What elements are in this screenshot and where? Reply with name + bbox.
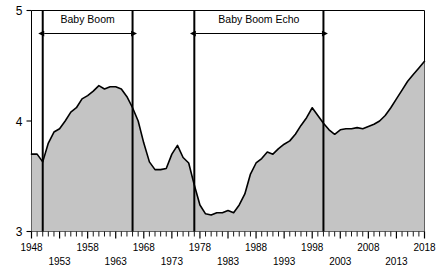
x-tick-label: 2013	[385, 256, 408, 267]
x-tick-label: 1983	[217, 256, 240, 267]
annotation-label: Baby Boom Echo	[218, 13, 299, 25]
x-tick-label: 1998	[301, 242, 324, 253]
series-area-fill	[32, 61, 425, 231]
x-tick-label: 1948	[20, 242, 43, 253]
y-tick-label: 5	[16, 4, 23, 18]
x-tick-label: 1993	[273, 256, 296, 267]
y-tick-label: 4	[16, 115, 23, 129]
x-tick-label: 2018	[413, 242, 436, 253]
x-tick-label: 2003	[329, 256, 352, 267]
x-tick-label: 1988	[245, 242, 268, 253]
annotation-label: Baby Boom	[61, 13, 116, 25]
x-tick-label: 1968	[133, 242, 156, 253]
chart-container: 3451948195319581963196819731978198319881…	[0, 0, 445, 274]
x-tick-label: 1973	[161, 256, 184, 267]
x-tick-label: 1963	[105, 256, 128, 267]
x-tick-label: 1978	[189, 242, 212, 253]
y-tick-label: 3	[16, 225, 23, 239]
x-tick-label: 2008	[357, 242, 380, 253]
x-tick-label: 1953	[48, 256, 71, 267]
area-chart: 3451948195319581963196819731978198319881…	[0, 0, 445, 274]
x-tick-label: 1958	[77, 242, 100, 253]
